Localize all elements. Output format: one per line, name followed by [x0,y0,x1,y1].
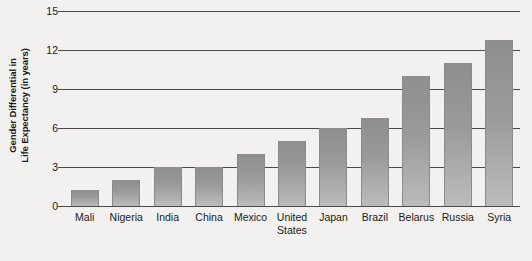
bar [444,63,472,206]
bar-slot [64,11,105,206]
bar [195,167,223,206]
x-tick-label: Syria [473,211,526,224]
y-axis-tick-labels: 03691215 [36,11,58,206]
y-tick-label: 12 [36,45,58,56]
bar-slot [271,11,312,206]
bar [319,128,347,206]
y-tick-label: 9 [36,84,58,95]
bar [237,154,265,206]
bar-slot [188,11,229,206]
plot-area [64,11,520,206]
y-tick-label: 0 [36,201,58,212]
y-axis-title-line-2: Life Expectancy (in years) [18,48,30,163]
bar [402,76,430,206]
y-tick-label: 6 [36,123,58,134]
x-axis-line [58,206,520,207]
bar-slot [437,11,478,206]
y-axis-title-line-1: Gender Differential in [7,48,19,163]
y-axis-title: Gender Differential in Life Expectancy (… [0,0,36,210]
bar [485,40,513,206]
bar-chart: Gender Differential in Life Expectancy (… [0,0,532,261]
bar [154,167,182,206]
bar-slot [396,11,437,206]
bar [112,180,140,206]
bar [361,118,389,206]
bar-slot [147,11,188,206]
bar-slot [105,11,146,206]
bar [71,190,99,206]
bar-slot [313,11,354,206]
bar-slot [354,11,395,206]
y-tick-label: 3 [36,162,58,173]
x-axis-tick-labels: MaliNigeriaIndiaChinaMexicoUnited States… [64,211,520,255]
bars-layer [64,11,520,206]
y-tick-label: 15 [36,6,58,17]
bar-slot [479,11,520,206]
bar-slot [230,11,271,206]
bar [278,141,306,206]
